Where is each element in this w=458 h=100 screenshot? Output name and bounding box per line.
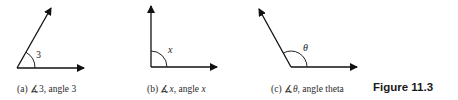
figure-11-3: 3 x θ (a) ∡3, angle 3 (b) ∡x, angle x (c… [0, 0, 458, 100]
caption-a-suffix: , angle [44, 84, 72, 94]
ray-oblique-a [17, 8, 51, 68]
ray-oblique-c [259, 9, 291, 67]
angle-c-diagram: θ [259, 9, 357, 67]
caption-b: (b) ∡x, angle x [147, 83, 206, 94]
angle-symbol-icon: ∡ [284, 84, 293, 94]
angle-b-diagram: x [151, 6, 217, 67]
figure-label: Figure 11.3 [373, 81, 433, 93]
caption-c: (c) ∡θ, angle theta [271, 83, 344, 94]
caption-a-name: 3 [71, 84, 76, 94]
caption-b-name: x [201, 84, 205, 94]
angle-arc-a [26, 52, 35, 68]
angle-label-c: θ [303, 42, 308, 53]
angle-label-a: 3 [36, 49, 41, 60]
angle-arc-b [151, 51, 167, 67]
angle-a-diagram: 3 [17, 8, 84, 68]
caption-c-prefix: (c) [271, 84, 284, 94]
angle-symbol-icon: ∡ [30, 84, 39, 94]
caption-a: (a) ∡3, angle 3 [17, 83, 76, 94]
caption-c-suffix: , angle theta [298, 84, 344, 94]
caption-a-prefix: (a) [17, 84, 30, 94]
caption-b-suffix: , angle [174, 84, 202, 94]
angle-label-b: x [167, 44, 173, 55]
caption-b-prefix: (b) [147, 84, 160, 94]
